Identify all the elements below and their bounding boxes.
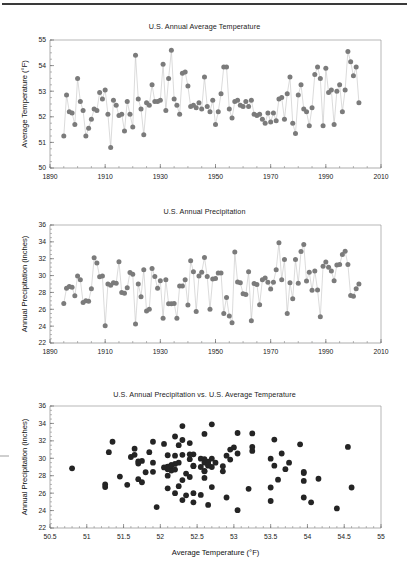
data-point (165, 452, 171, 458)
x-tick-label: 55 (377, 533, 385, 540)
data-point (249, 98, 254, 103)
data-point (213, 122, 218, 127)
data-point (263, 276, 268, 281)
data-point (124, 482, 130, 488)
data-point (235, 98, 240, 103)
x-tick-label: 2010 (373, 173, 388, 180)
data-point (172, 490, 178, 496)
data-point (274, 267, 279, 272)
y-tick-label: 51 (38, 139, 46, 146)
data-point (246, 486, 252, 492)
data-point (199, 107, 204, 112)
data-point (111, 98, 116, 103)
data-point (169, 48, 174, 53)
data-point (315, 287, 320, 292)
data-point (301, 469, 307, 475)
data-point (345, 444, 351, 450)
x-tick-label: 1970 (263, 173, 278, 180)
data-point (282, 117, 287, 122)
x-tick-label: 1950 (208, 348, 223, 355)
data-point (163, 277, 168, 282)
data-point (329, 87, 334, 92)
data-point (180, 423, 186, 429)
x-tick-label: 53 (230, 533, 238, 540)
data-point (224, 453, 230, 459)
data-point (132, 446, 138, 452)
data-point (136, 282, 141, 287)
data-point (332, 278, 337, 283)
data-point (224, 64, 229, 69)
data-point (133, 322, 138, 327)
data-point (318, 76, 323, 81)
data-point (187, 451, 193, 457)
data-point (279, 95, 284, 100)
data-point (81, 108, 86, 113)
data-point (108, 145, 113, 150)
x-tick-label: 1890 (42, 348, 57, 355)
x-tick-label: 52.5 (190, 533, 203, 540)
data-point (271, 280, 276, 285)
data-point (282, 257, 287, 262)
data-point (196, 100, 201, 105)
y-tick-label: 28 (38, 472, 46, 479)
data-point (285, 91, 290, 96)
data-point (202, 75, 207, 80)
data-point (323, 260, 328, 265)
x-tick-label: 51 (83, 533, 91, 540)
data-point (114, 103, 119, 108)
data-point (105, 112, 110, 117)
data-point (293, 131, 298, 136)
top-horizontal-rule (2, 3, 407, 5)
data-point (191, 463, 197, 469)
data-point (232, 249, 237, 254)
y-tick-label: 34 (38, 238, 46, 245)
data-point (227, 314, 232, 319)
y-tick-label: 34 (38, 420, 46, 427)
data-point (254, 282, 259, 287)
data-point (110, 439, 116, 445)
data-point (310, 105, 315, 110)
data-point (89, 286, 94, 291)
data-point (92, 255, 97, 260)
data-point (187, 440, 193, 446)
data-point (158, 278, 163, 283)
data-point (64, 93, 69, 98)
data-point (287, 75, 292, 80)
data-point (150, 460, 156, 466)
data-point (312, 72, 317, 77)
data-point (127, 112, 132, 117)
y-tick-label: 24 (38, 323, 46, 330)
plot-scatter: 50.55151.55252.55353.55454.5552224262830… (0, 388, 409, 570)
data-point (275, 477, 281, 483)
data-point (329, 268, 334, 273)
data-point (343, 249, 348, 254)
y-tick-label: 54 (38, 62, 46, 69)
data-point (75, 76, 80, 81)
data-point (210, 98, 215, 103)
data-point (172, 453, 178, 459)
data-point (296, 93, 301, 98)
data-point (308, 499, 314, 505)
x-tick-label: 1890 (42, 173, 57, 180)
data-point (349, 485, 355, 491)
y-tick-label: 22 (38, 339, 46, 346)
data-point (194, 105, 199, 110)
data-point (61, 301, 66, 306)
y-tick-label: 36 (38, 221, 46, 228)
data-point (141, 267, 146, 272)
data-point (166, 76, 171, 81)
data-point (265, 110, 270, 115)
x-tick-label: 50.5 (43, 533, 56, 540)
data-point (293, 257, 298, 262)
data-point (180, 437, 186, 443)
data-point (183, 471, 189, 477)
data-point (224, 495, 230, 501)
data-point (165, 473, 171, 479)
data-point (172, 96, 177, 101)
data-point (130, 272, 135, 277)
data-point (276, 240, 281, 245)
data-point (114, 281, 119, 286)
data-point (161, 441, 167, 447)
data-point (312, 268, 317, 273)
data-point (146, 449, 152, 455)
